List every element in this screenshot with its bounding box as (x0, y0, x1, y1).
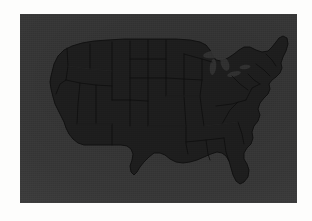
us-map-graphic (20, 14, 297, 203)
map-image-panel: Contiguous United States (20, 14, 297, 203)
contiguous-us-landmass (50, 36, 288, 184)
screenshot-root: Contiguous United States (0, 0, 312, 221)
landmass-group (50, 36, 288, 184)
